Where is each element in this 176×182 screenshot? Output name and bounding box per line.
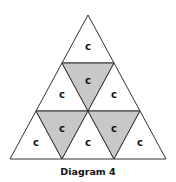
diagram-caption: Diagram 4 [60, 166, 116, 177]
triangle-diagram: c c c c c c c c c Diagram 4 [0, 0, 176, 182]
cell-label: c [85, 137, 91, 148]
cell-label: c [59, 89, 65, 100]
cell-label: c [33, 137, 39, 148]
cell-r1-up1 [62, 15, 114, 63]
cell-label: c [85, 41, 91, 52]
cell-label: c [111, 89, 117, 100]
cell-label: c [111, 123, 117, 134]
cell-label: c [137, 137, 143, 148]
cell-label: c [59, 123, 65, 134]
cell-label: c [85, 75, 91, 86]
